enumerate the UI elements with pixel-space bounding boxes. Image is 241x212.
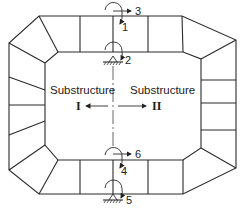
dof-label-2: 2: [125, 54, 131, 66]
dof-label-4: 4: [121, 165, 127, 177]
dof-label-5: 5: [126, 194, 132, 206]
dof-label-1: 1: [122, 21, 128, 33]
substructure-i-label: Substructure: [50, 84, 115, 96]
substructure-diagram: 3 1 2 6 4 5 Substructure Substructure I …: [0, 0, 241, 212]
dof-label-6: 6: [135, 148, 141, 160]
dof-label-3: 3: [135, 5, 141, 17]
top-support: [103, 56, 123, 65]
bottom-support: [103, 194, 123, 203]
right-panel-dividers: [201, 80, 236, 130]
substructure-i-numeral: I: [76, 99, 81, 113]
left-panel-dividers: [9, 77, 45, 135]
bottom-panel-dividers: [80, 160, 148, 194]
substructure-ii-label: Substructure: [130, 84, 195, 96]
substructure-ii-numeral: II: [152, 99, 162, 113]
top-panel-dividers: [80, 16, 148, 52]
